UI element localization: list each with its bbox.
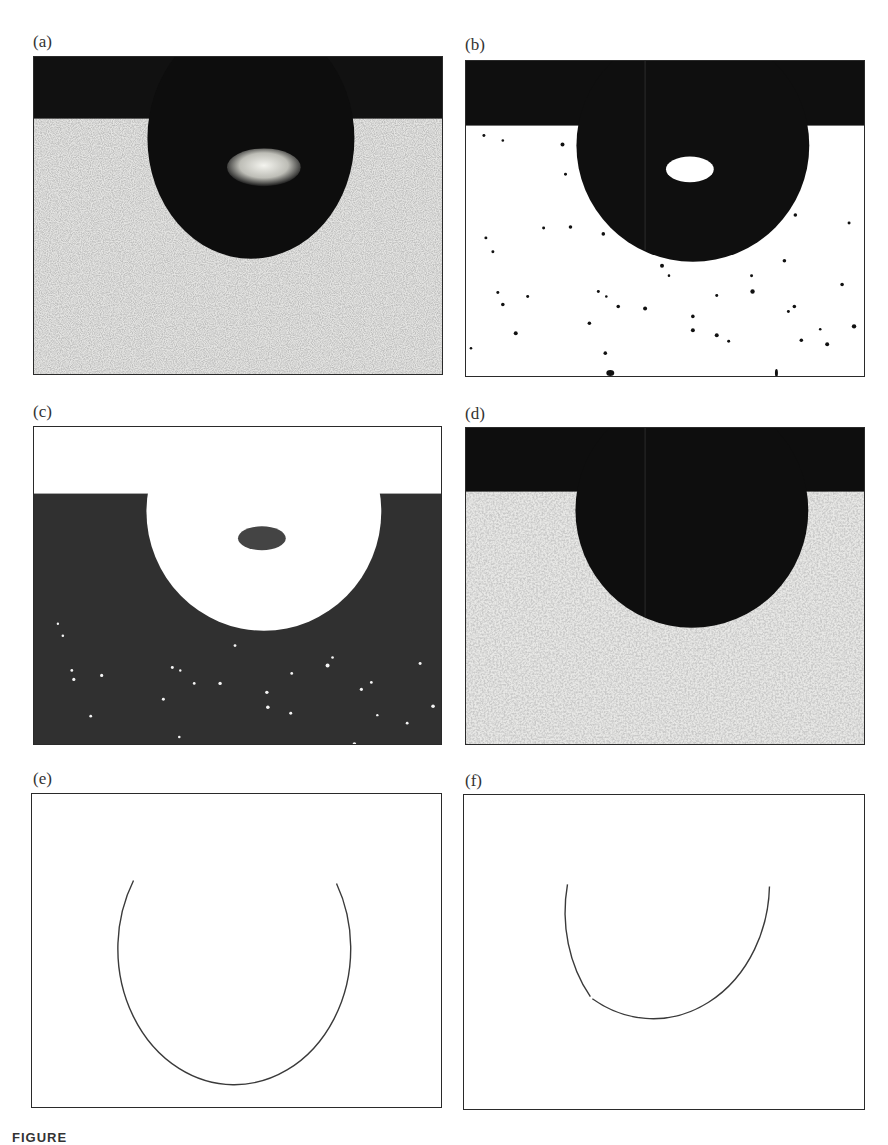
panel-a-grayscale-drop-image [33, 56, 443, 375]
panel-f-contour-image [463, 794, 865, 1110]
panel-label-d: (d) [465, 405, 485, 422]
panel-d-filled-drop-image [465, 427, 865, 745]
panel-label-a: (a) [33, 33, 52, 50]
panel-e-contour-image [31, 793, 442, 1108]
panel-label-c: (c) [33, 403, 52, 420]
caption-prefix: FIGURE [12, 1130, 67, 1145]
panel-label-e: (e) [33, 770, 52, 787]
figure-caption: FIGURE [12, 1131, 67, 1144]
panel-label-f: (f) [465, 772, 482, 789]
panel-label-b: (b) [465, 36, 485, 53]
panel-b-threshold-image [465, 60, 865, 377]
panel-c-inverted-image [33, 426, 442, 745]
